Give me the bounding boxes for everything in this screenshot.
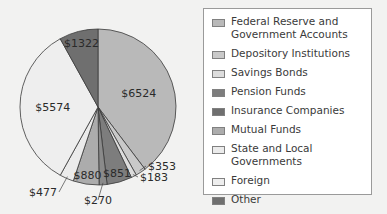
legend: Federal Reserve and Government Accounts … [203,8,372,195]
slice-value-label: $183 [140,171,168,184]
slice-value-label: $1322 [64,37,99,50]
legend-swatch-icon [212,70,225,78]
legend-swatch-icon [212,178,225,186]
slice-value-label: $851 [103,167,131,180]
legend-label: Other [231,193,261,206]
legend-label: Depository Institutions [231,47,350,60]
legend-item-depository-institutions: Depository Institutions [212,47,371,60]
legend-swatch-icon [212,197,225,205]
legend-item-insurance-companies: Insurance Companies [212,104,371,117]
leader-line [59,177,67,192]
legend-label: Mutual Funds [231,123,301,136]
legend-label: Foreign [231,174,270,187]
legend-label: Insurance Companies [231,104,344,117]
legend-label: Pension Funds [231,85,306,98]
legend-item-pension-funds: Pension Funds [212,85,371,98]
legend-label: Federal Reserve and Government Accounts [231,15,371,41]
legend-swatch-icon [212,51,225,59]
legend-label: Savings Bonds [231,66,308,79]
legend-swatch-icon [212,146,225,154]
legend-swatch-icon [212,19,225,27]
legend-item-foreign: Foreign [212,174,371,187]
pie-chart: $6524$353$183$851$270$880$477$5574$1322 [0,0,200,214]
legend-label: State and Local Governments [231,142,371,168]
slice-value-label: $880 [73,169,101,182]
slice-value-label: $6524 [121,87,156,100]
slice-value-label: $477 [29,186,57,199]
legend-item-federal-reserve: Federal Reserve and Government Accounts [212,15,371,41]
legend-swatch-icon [212,127,225,135]
legend-swatch-icon [212,108,225,116]
legend-item-state-local: State and Local Governments [212,142,371,168]
legend-item-mutual-funds: Mutual Funds [212,123,371,136]
legend-item-savings-bonds: Savings Bonds [212,66,371,79]
legend-swatch-icon [212,89,225,97]
legend-item-other: Other [212,193,371,206]
slice-value-label: $270 [84,194,112,207]
slice-value-label: $5574 [35,101,70,114]
